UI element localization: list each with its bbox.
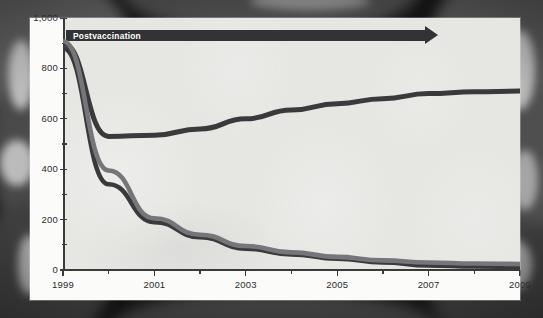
x-tick-minor: [474, 270, 475, 274]
figure-root: Postvaccination 02004006008001,000199920…: [0, 0, 543, 318]
chart-panel: Postvaccination 02004006008001,000199920…: [30, 18, 520, 300]
line-series-lower-gray: [63, 41, 520, 264]
x-tick-major: [62, 270, 63, 276]
x-tick-major: [428, 270, 429, 276]
y-tick-label: 200: [42, 215, 58, 225]
x-axis-label-gutter: [30, 270, 520, 300]
x-tick-major: [337, 270, 338, 276]
x-tick-minor: [291, 270, 292, 274]
x-tick-major: [245, 270, 246, 276]
line-series-lower-dark: [63, 48, 520, 267]
x-tick-label: 2009: [509, 280, 531, 290]
x-tick-label: 2007: [418, 280, 440, 290]
x-tick-label: 2001: [143, 280, 165, 290]
y-tick-label: 600: [42, 114, 58, 124]
y-tick-label: 800: [42, 63, 58, 73]
x-tick-label: 2003: [235, 280, 257, 290]
y-axis-label-gutter: [30, 18, 63, 274]
y-tick-label: 400: [42, 164, 58, 174]
x-tick-minor: [108, 270, 109, 274]
y-tick-label: 1,000: [33, 13, 58, 23]
x-tick-label: 2005: [326, 280, 348, 290]
y-tick-label: 0: [53, 265, 58, 275]
x-tick-minor: [199, 270, 200, 274]
x-tick-label: 1999: [52, 280, 74, 290]
x-tick-major: [154, 270, 155, 276]
x-tick-major: [519, 270, 520, 276]
series-lines: [63, 18, 520, 270]
line-series-upper: [63, 43, 520, 136]
x-tick-minor: [382, 270, 383, 274]
